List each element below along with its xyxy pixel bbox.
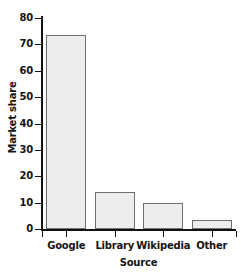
y-axis-tick-label: 70 — [3, 39, 33, 49]
y-axis-tick — [35, 44, 42, 45]
y-axis-tick-label: 0 — [3, 224, 33, 234]
x-axis-line — [41, 229, 236, 231]
x-axis-tick — [115, 231, 116, 237]
y-axis-tick — [35, 97, 42, 98]
bar-chart: 01020304050607080 GoogleLibraryWikipedia… — [0, 0, 241, 279]
x-axis-tick — [163, 231, 164, 237]
x-axis-end-tick — [236, 231, 237, 237]
y-axis-tick-label: 20 — [3, 171, 33, 181]
x-axis-end-tick — [42, 231, 43, 237]
x-axis-tick — [66, 231, 67, 237]
y-axis-tick-label: 80 — [3, 13, 33, 23]
x-axis-tick-label-google: Google — [47, 240, 85, 251]
y-axis-tick — [35, 203, 42, 204]
y-axis-tick — [35, 124, 42, 125]
x-axis-tick-label-other: Other — [196, 240, 227, 251]
y-axis-tick-label: 10 — [3, 198, 33, 208]
y-axis-tick — [35, 229, 42, 230]
y-axis-tick — [35, 150, 42, 151]
x-axis-tick-label-wikipedia: Wikipedia — [136, 240, 190, 251]
y-axis-title: Market share — [7, 68, 18, 168]
y-axis-tick — [35, 176, 42, 177]
x-axis-tick — [212, 231, 213, 237]
y-axis-tick — [35, 18, 42, 19]
plot-area — [42, 18, 236, 229]
y-axis-tick — [35, 71, 42, 72]
x-axis-tick-label-library: Library — [95, 240, 134, 251]
x-axis-title: Source — [41, 257, 236, 268]
